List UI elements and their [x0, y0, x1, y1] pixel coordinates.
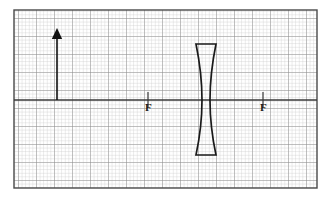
- focal-point-label-left: F: [145, 102, 152, 113]
- diagram-canvas: F F: [0, 0, 332, 202]
- focal-point-label-right: F: [260, 102, 267, 113]
- optics-ray-diagram: [0, 0, 332, 202]
